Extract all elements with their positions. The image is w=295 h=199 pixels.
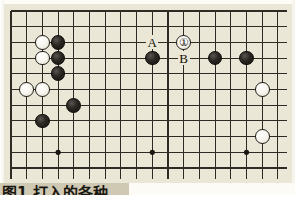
go-stone-black[interactable] [35,114,50,129]
go-stone-white[interactable] [35,51,50,66]
go-stone-white[interactable] [19,82,34,97]
stone-move-number: ① [177,36,190,49]
go-stone-white[interactable] [255,82,270,97]
figure-screenshot: ① AB 图1 打入的各种 [0,0,295,199]
go-stone-white[interactable] [35,82,50,97]
go-stone-white[interactable] [255,129,270,144]
go-stone-white[interactable] [35,35,50,50]
point-label-b[interactable]: B [177,52,191,65]
point-label-a[interactable]: A [145,36,159,49]
go-stone-black[interactable] [51,35,66,50]
go-board[interactable]: ① AB [4,4,292,182]
go-stone-white[interactable]: ① [176,35,191,50]
page-right-margin [292,0,295,183]
go-stone-black[interactable] [66,98,81,113]
caption-crop-edge [0,195,295,199]
go-stone-black[interactable] [145,51,160,66]
